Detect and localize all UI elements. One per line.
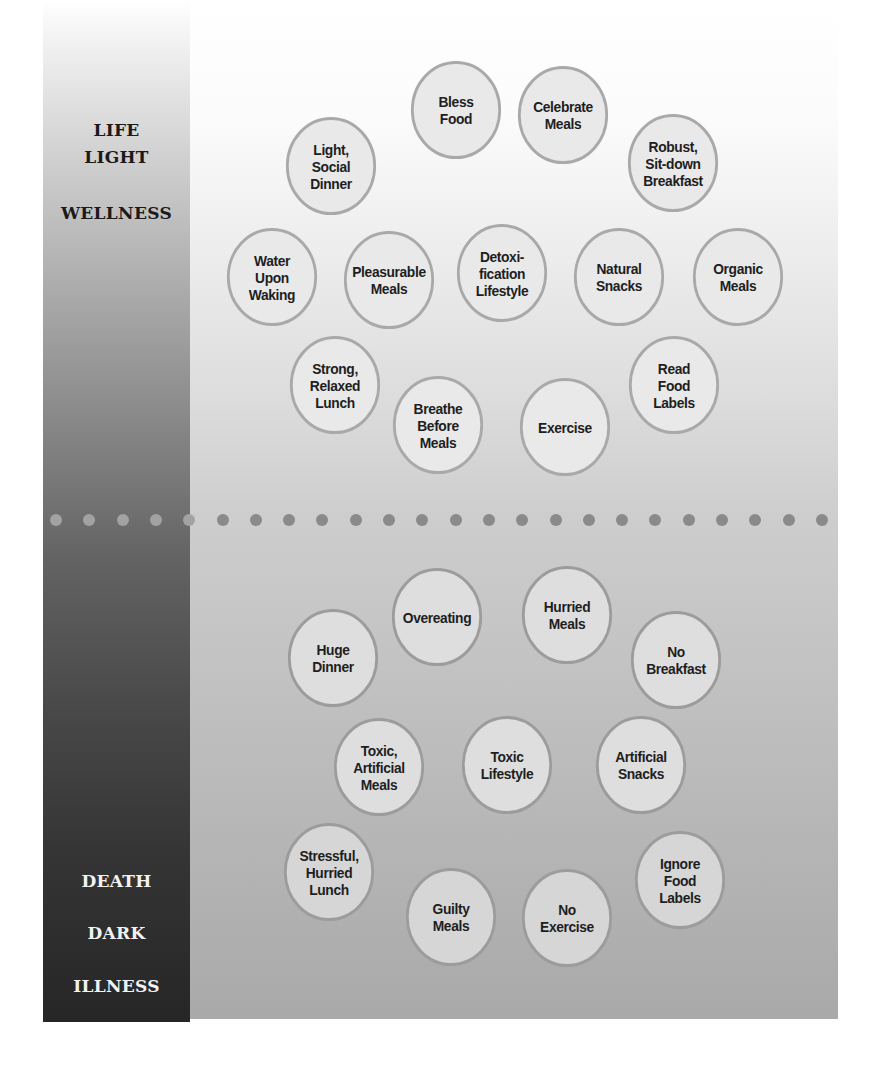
- divider-dot: [583, 514, 595, 526]
- divider-dot: [450, 514, 462, 526]
- divider-dot: [350, 514, 362, 526]
- negative-habit-bubble: Guilty Meals: [406, 868, 496, 966]
- negative-habit-bubble: Hurried Meals: [522, 566, 612, 664]
- divider-dot: [117, 514, 129, 526]
- divider-dot: [716, 514, 728, 526]
- divider-dot: [217, 514, 229, 526]
- divider-dot: [183, 514, 195, 526]
- label-wellness: WELLNESS: [43, 203, 190, 223]
- divider-dot: [683, 514, 695, 526]
- positive-habit-bubble: Organic Meals: [693, 228, 783, 326]
- divider-dot: [416, 514, 428, 526]
- divider-dot: [550, 514, 562, 526]
- label-dark: DARK: [43, 923, 190, 943]
- positive-habit-bubble: Light, Social Dinner: [286, 117, 376, 215]
- negative-habit-bubble: Overeating: [392, 568, 482, 666]
- positive-habit-bubble: Strong, Relaxed Lunch: [290, 336, 380, 434]
- divider-dot: [649, 514, 661, 526]
- divider-dot: [483, 514, 495, 526]
- divider-dot: [150, 514, 162, 526]
- negative-habit-bubble: Artificial Snacks: [596, 716, 686, 814]
- divider-dot: [783, 514, 795, 526]
- positive-habit-bubble: Pleasurable Meals: [344, 231, 434, 329]
- wellness-illness-diagram: LIFE LIGHT WELLNESS DEATH DARK ILLNESS B…: [0, 0, 873, 1067]
- divider-dot: [516, 514, 528, 526]
- negative-habit-bubble: No Exercise: [522, 869, 612, 967]
- positive-habit-bubble: Water Upon Waking: [227, 228, 317, 326]
- positive-habit-bubble: Celebrate Meals: [518, 66, 608, 164]
- divider-dot: [616, 514, 628, 526]
- positive-habit-bubble: Natural Snacks: [574, 228, 664, 326]
- negative-habit-bubble: Toxic, Artificial Meals: [334, 718, 424, 816]
- negative-habit-bubble: No Breakfast: [631, 611, 721, 709]
- divider-dot: [50, 514, 62, 526]
- divider-dot: [316, 514, 328, 526]
- negative-habit-bubble: Toxic Lifestyle: [462, 716, 552, 814]
- negative-habit-bubble: Huge Dinner: [288, 609, 378, 707]
- label-light: LIGHT: [43, 147, 190, 167]
- divider-dot: [283, 514, 295, 526]
- positive-habit-bubble: Exercise: [520, 378, 610, 476]
- positive-habit-bubble: Detoxi- fication Lifestyle: [457, 224, 547, 322]
- divider-dot: [816, 514, 828, 526]
- negative-habit-bubble: Stressful, Hurried Lunch: [284, 823, 374, 921]
- positive-habit-bubble: Breathe Before Meals: [393, 376, 483, 474]
- divider-dot: [383, 514, 395, 526]
- label-life: LIFE: [43, 120, 190, 140]
- positive-habit-bubble: Read Food Labels: [629, 336, 719, 434]
- divider-dot: [749, 514, 761, 526]
- label-death: DEATH: [43, 871, 190, 891]
- positive-habit-bubble: Bless Food: [411, 61, 501, 159]
- negative-habit-bubble: Ignore Food Labels: [635, 831, 725, 929]
- label-illness: ILLNESS: [43, 976, 190, 996]
- positive-habit-bubble: Robust, Sit-down Breakfast: [628, 114, 718, 212]
- divider-dot: [250, 514, 262, 526]
- divider-dot: [83, 514, 95, 526]
